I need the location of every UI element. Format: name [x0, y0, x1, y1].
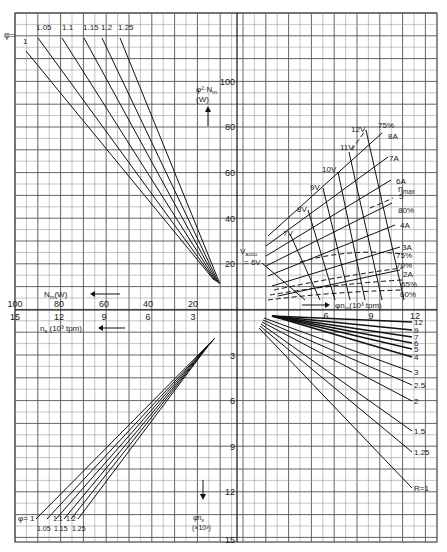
phi-label-1: 1 — [23, 37, 28, 46]
phi-label-1.2: 1.2 — [101, 23, 113, 32]
phi-label-1.05: 1.05 — [36, 23, 52, 32]
grid — [15, 13, 437, 542]
tick-label-y-bottom: 9 — [230, 442, 235, 452]
tick-label-speed: 9 — [101, 312, 106, 322]
right-x-axis-label: φnm(10³ tpm) — [335, 301, 382, 311]
gear-ratio-label: 1.5 — [414, 427, 426, 436]
gear-ratio-label: 1.25 — [414, 448, 430, 457]
v-accu-value: = 6V — [244, 258, 261, 267]
left-speed-axis-label: ns (10³ tpm) — [40, 324, 82, 334]
tick-label-power: 40 — [143, 299, 153, 309]
current-label: 7A — [389, 154, 399, 163]
efficiency-label: 80% — [398, 206, 414, 215]
phi-speed-label: 1.15 — [54, 525, 68, 532]
phi-equals-label: φ= — [4, 30, 15, 40]
phi-speed-label: 1.1 — [53, 515, 63, 522]
efficiency-label: 60% — [400, 290, 416, 299]
tick-label-power: 20 — [188, 299, 198, 309]
gear-ratio-label: 2 — [414, 397, 419, 406]
gear-ratio-label: 4 — [414, 353, 419, 362]
phi-speed-label: 1.25 — [72, 525, 86, 532]
voltage-label: 8V — [297, 205, 307, 214]
top-y-axis-unit: (W) — [196, 95, 209, 104]
voltage-label: 9V — [310, 183, 320, 192]
phi-label-1.25: 1.25 — [118, 23, 134, 32]
tick-label-y-top: 80 — [225, 122, 235, 132]
current-label: 4A — [400, 221, 410, 230]
tick-label-x-right: 12 — [410, 311, 420, 321]
efficiency-label: 75% — [396, 251, 412, 260]
tick-label-y-bottom: 12 — [225, 487, 235, 497]
tick-label-y-bottom: 6 — [230, 396, 235, 406]
efficiency-label: 75% — [378, 121, 394, 130]
gear-ratio-label: 2.5 — [414, 381, 426, 390]
tick-label-y-top: 20 — [225, 259, 235, 269]
tick-label-power: 80 — [54, 299, 64, 309]
tick-label-speed: 15 — [10, 312, 20, 322]
efficiency-label: 65% — [401, 280, 417, 289]
phi-speed-label: 1.05 — [37, 525, 51, 532]
tick-label-x-right: 6 — [323, 311, 328, 321]
voltage-label: 10V — [322, 165, 337, 174]
gear-ratio-label: R=1 — [414, 484, 429, 493]
tick-label-power: 60 — [99, 299, 109, 309]
gear-ratio-label: 3 — [414, 368, 419, 377]
tick-label-speed: 3 — [190, 312, 195, 322]
tick-label-y-bottom: 3 — [230, 351, 235, 361]
current-label: 2A — [403, 270, 413, 279]
bottom-y-axis-unit: (×10³) — [192, 524, 211, 532]
tick-label-y-top: 40 — [225, 214, 235, 224]
tick-label-speed: 6 — [145, 312, 150, 322]
nomogram-chart: 11.051.11.151.21.25φ= 7V8V9V10V11V12V8A7… — [0, 0, 447, 552]
left-power-axis-label: Nm(W) — [44, 290, 68, 300]
phi-speed-label: 1.2 — [66, 515, 76, 522]
tick-label-y-top: 100 — [220, 77, 235, 87]
voltage-label: 12V — [351, 125, 366, 134]
voltage-label: 7V — [283, 229, 293, 238]
voltage-label: 11V — [340, 143, 354, 152]
tick-label-speed: 12 — [54, 312, 64, 322]
tick-label-x-right: 9 — [368, 311, 373, 321]
tick-label-y-bottom: 15 — [225, 535, 235, 545]
grid-frame — [15, 13, 437, 542]
phi-label-1.1: 1.1 — [62, 23, 74, 32]
efficiency-label: 70% — [396, 261, 412, 270]
tick-label-power: 100 — [7, 299, 22, 309]
phi-label-1.15: 1.15 — [83, 23, 99, 32]
phi-equals-1-label: φ= 1 — [18, 514, 35, 523]
tick-label-y-top: 60 — [225, 168, 235, 178]
current-label: 8A — [388, 132, 398, 141]
